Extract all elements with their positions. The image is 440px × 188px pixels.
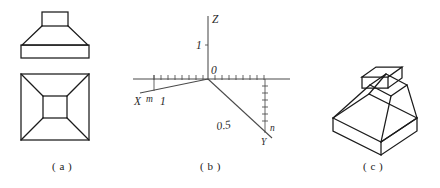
front-view-top-boss — [42, 12, 68, 26]
x-axis-oblique — [140, 79, 208, 93]
y-axis-label: Y — [261, 137, 268, 147]
figure-root: Z 1 0 X m 1 0.5 n Y — [0, 0, 440, 188]
z-axis-label: Z — [212, 13, 219, 25]
top-view-diagonal-tl — [21, 74, 43, 96]
panel-a-top-view — [21, 74, 89, 140]
iso-boss-top-face — [362, 67, 402, 77]
top-view-inner-square — [43, 96, 67, 118]
front-view-frustum — [22, 26, 88, 45]
panel-b-axes: Z 1 0 X m 1 0.5 n Y — [133, 13, 290, 147]
origin-label: 0 — [211, 64, 217, 76]
top-view-diagonal-bl — [21, 118, 43, 140]
iso-frustum-edge-left — [333, 85, 370, 118]
iso-base-top-face — [333, 94, 417, 142]
iso-boss-right-face — [388, 67, 402, 88]
iso-frustum-edge-right — [407, 85, 417, 118]
x-marker-label: m — [146, 94, 153, 104]
caption-panel-c: ( c ) — [363, 160, 383, 172]
iso-base-front-right-face — [381, 118, 417, 155]
top-view-diagonal-tr — [67, 74, 89, 96]
top-view-diagonal-br — [67, 118, 89, 140]
panel-a-front-view — [21, 12, 89, 58]
y-marker-label: n — [270, 123, 275, 133]
caption-panel-b: ( b ) — [200, 160, 221, 172]
y-value-label: 0.5 — [216, 118, 232, 132]
caption-panel-a: ( a ) — [52, 160, 72, 172]
x-unit-label: 1 — [160, 95, 166, 107]
z-unit-label: 1 — [196, 39, 202, 51]
x-axis-label: X — [133, 95, 142, 107]
front-view-base-slab — [21, 45, 89, 58]
iso-base-front-left-face — [333, 118, 381, 155]
panel-c-isometric-view — [333, 67, 417, 155]
